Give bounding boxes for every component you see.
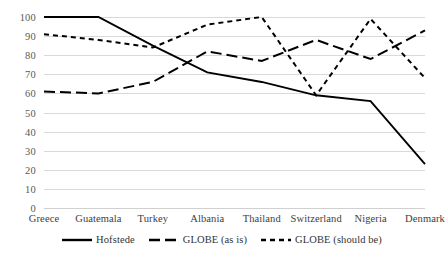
x-tick-label: Greece [29,213,59,224]
legend-item[interactable]: GLOBE (as is) [149,234,247,245]
y-tick-label: 40 [0,126,36,137]
legend-swatch-long-dash [149,235,179,245]
legend-swatch-solid [62,235,92,245]
x-tick-label: Albania [190,213,224,224]
x-tick-label: Switzerland [291,213,342,224]
x-axis-labels: GreeceGuatemalaTurkeyAlbaniaThailandSwit… [44,210,425,230]
plot-area [44,17,425,208]
x-tick-label: Nigeria [354,213,386,224]
y-tick-label: 50 [0,107,36,118]
y-tick-label: 60 [0,88,36,99]
legend-swatch-short-dash [261,235,291,245]
y-tick-label: 90 [0,31,36,42]
gridline-0 [44,208,425,209]
legend-item[interactable]: GLOBE (should be) [261,234,382,245]
legend-label: GLOBE (should be) [295,234,382,245]
x-tick-label: Thailand [243,213,281,224]
series-lines [44,17,425,208]
legend-label: GLOBE (as is) [183,234,247,245]
y-tick-label: 100 [0,12,36,23]
legend-item[interactable]: Hofstede [62,234,135,245]
y-tick-label: 30 [0,145,36,156]
x-tick-label: Turkey [138,213,169,224]
y-tick-label: 20 [0,164,36,175]
legend-label: Hofstede [96,234,135,245]
y-tick-label: 80 [0,50,36,61]
series-line [44,17,425,164]
chart-legend: HofstedeGLOBE (as is)GLOBE (should be) [0,234,444,245]
y-tick-label: 10 [0,183,36,194]
x-tick-label: Denmark [405,213,445,224]
x-tick-label: Guatemala [75,213,121,224]
y-tick-label: 0 [0,203,36,214]
y-axis-labels: 1009080706050403020100 [0,17,40,208]
y-tick-label: 70 [0,69,36,80]
